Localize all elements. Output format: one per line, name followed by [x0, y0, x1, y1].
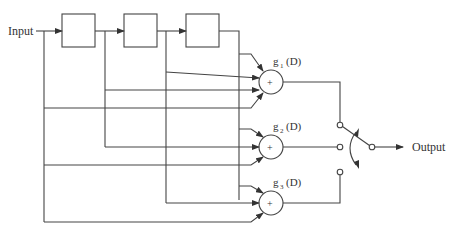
a3-in-d3 [239, 186, 263, 193]
svg-text:(D): (D) [286, 176, 302, 189]
switch-contact-2[interactable] [337, 144, 343, 150]
svg-text:(D): (D) [286, 55, 302, 68]
adder-2-label: g 2 (D) [273, 120, 302, 135]
a1-in-d3 [239, 54, 263, 71]
svg-text:g: g [273, 176, 279, 188]
a2-in-input [44, 157, 263, 165]
svg-text:g: g [273, 55, 279, 67]
output-label: Output [412, 140, 446, 154]
input-label: Input [8, 24, 34, 38]
adder-1-symbol: + [267, 77, 273, 88]
delay-block-2 [124, 14, 157, 47]
svg-text:2: 2 [280, 127, 284, 135]
a1-in-d2 [166, 72, 259, 78]
a1-in-input [44, 93, 263, 108]
adder-3-symbol: + [267, 198, 273, 209]
switch-pivot[interactable] [369, 144, 375, 150]
delay-block-3 [186, 14, 219, 47]
adder-2-symbol: + [267, 142, 273, 153]
svg-text:g: g [273, 120, 279, 132]
svg-text:(D): (D) [286, 120, 302, 133]
switch-rotation-arc [350, 132, 356, 165]
delay-block-1 [62, 14, 95, 47]
svg-text:3: 3 [280, 183, 284, 191]
a3-in-input [44, 213, 263, 222]
switch-contact-3[interactable] [337, 169, 343, 175]
arc-arrow-down-icon [354, 160, 359, 169]
a1-out [283, 82, 340, 122]
a2-in-d3 [239, 129, 263, 137]
svg-text:1: 1 [280, 62, 284, 70]
encoder-diagram: Input Output + + + g 1 (D) g 2 (D) g 3 (… [0, 0, 456, 234]
tap-d3 [219, 31, 239, 200]
switch-contact-1[interactable] [337, 122, 343, 128]
adder-1-label: g 1 (D) [273, 55, 302, 70]
adder-3-label: g 3 (D) [273, 176, 302, 191]
